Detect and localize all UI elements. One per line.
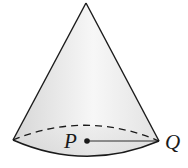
center-point-p (84, 138, 90, 144)
label-q: Q (165, 130, 180, 154)
label-p: P (63, 129, 77, 153)
cone-diagram: P Q (0, 0, 188, 168)
